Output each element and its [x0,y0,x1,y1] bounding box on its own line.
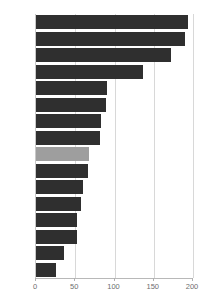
bar-chart: NLEAUKILBDEU-15ELDKFSIRLPFIN 05010015020… [0,0,201,300]
bar[interactable] [36,48,171,62]
x-tick-mark [114,278,115,281]
bar[interactable] [36,81,107,95]
bar-row[interactable]: IRL [36,229,193,246]
bar-row[interactable]: D [36,130,193,147]
bar-row[interactable]: DK [36,179,193,196]
plot-area: NLEAUKILBDEU-15ELDKFSIRLPFIN [35,14,193,278]
bar[interactable] [36,164,88,178]
x-tick-mark [74,278,75,281]
x-tick-mark [153,278,154,281]
bar-row[interactable]: L [36,97,193,114]
x-tick-mark [35,278,36,281]
bar-row[interactable]: EU-15 [36,146,193,163]
x-tick-label: 100 [101,282,127,292]
gridline [193,14,194,278]
bar-row[interactable]: P [36,245,193,262]
bar-row[interactable]: I [36,80,193,97]
bar[interactable] [36,15,188,29]
bar[interactable] [36,98,106,112]
bar-row[interactable]: EL [36,163,193,180]
x-tick-label: 0 [22,282,48,292]
bar[interactable] [36,65,143,79]
x-tick-label: 50 [61,282,87,292]
bar-row[interactable]: UK [36,64,193,81]
bar-row[interactable]: S [36,212,193,229]
bar-row[interactable]: B [36,113,193,130]
bar[interactable] [36,180,83,194]
bar[interactable] [36,213,77,227]
bar[interactable] [36,131,100,145]
bar[interactable] [36,32,185,46]
bar[interactable] [36,263,56,277]
bar-row[interactable]: A [36,47,193,64]
bar[interactable] [36,230,77,244]
bar-row[interactable]: F [36,196,193,213]
x-tick-label: 150 [140,282,166,292]
bar[interactable] [36,246,64,260]
bar[interactable] [36,147,89,161]
bar[interactable] [36,197,81,211]
x-tick-label: 200 [179,282,201,292]
bar-row[interactable]: FIN [36,262,193,279]
bar-row[interactable]: NL [36,14,193,31]
x-tick-mark [192,278,193,281]
bar-row[interactable]: E [36,31,193,48]
bar[interactable] [36,114,101,128]
chart-title [35,0,192,12]
